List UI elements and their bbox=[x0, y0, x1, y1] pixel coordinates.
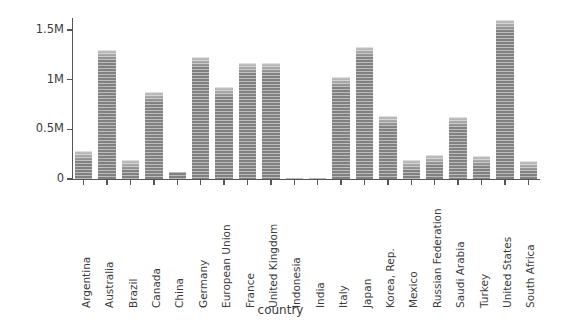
bar[interactable] bbox=[520, 161, 537, 179]
bar-highlight bbox=[379, 116, 396, 127]
bar[interactable] bbox=[403, 160, 420, 179]
bar-highlight bbox=[356, 47, 373, 58]
bar-highlight bbox=[262, 63, 279, 74]
bar[interactable] bbox=[473, 156, 490, 179]
bar[interactable] bbox=[332, 77, 349, 179]
bar[interactable] bbox=[426, 155, 443, 179]
bar[interactable] bbox=[309, 178, 326, 179]
bar[interactable] bbox=[496, 20, 513, 179]
bar[interactable] bbox=[75, 151, 92, 179]
bar-highlight bbox=[192, 57, 209, 68]
bar-highlight bbox=[122, 160, 139, 171]
bar-highlight bbox=[449, 117, 466, 128]
bar[interactable] bbox=[169, 172, 186, 179]
y-tick-label: 0 bbox=[57, 171, 64, 185]
bar[interactable] bbox=[122, 160, 139, 179]
bar[interactable] bbox=[356, 47, 373, 179]
plot-area bbox=[72, 18, 540, 179]
bar-highlight bbox=[145, 92, 162, 103]
bar[interactable] bbox=[449, 117, 466, 179]
bar-highlight bbox=[75, 151, 92, 162]
bar-highlight bbox=[426, 155, 443, 166]
y-tick-label: 1.5M bbox=[36, 22, 64, 36]
bar[interactable] bbox=[379, 116, 396, 179]
bar-highlight bbox=[239, 63, 256, 74]
bar[interactable] bbox=[215, 87, 232, 179]
bar-highlight bbox=[98, 50, 115, 61]
chart-figure: gnl_per_capita 00.5M1M1.5M ArgentinaAust… bbox=[0, 0, 561, 334]
bar[interactable] bbox=[192, 57, 209, 179]
y-tick-label: 0.5M bbox=[36, 121, 64, 135]
bar-highlight bbox=[403, 160, 420, 171]
bar[interactable] bbox=[239, 63, 256, 179]
y-tick-label: 1M bbox=[47, 72, 64, 86]
bar-highlight bbox=[520, 161, 537, 172]
x-axis-title: country bbox=[0, 303, 561, 317]
bar-highlight bbox=[332, 77, 349, 88]
x-axis-spine bbox=[72, 179, 540, 180]
bar[interactable] bbox=[262, 63, 279, 179]
bar-highlight bbox=[473, 156, 490, 167]
bar[interactable] bbox=[286, 178, 303, 179]
bar[interactable] bbox=[98, 50, 115, 179]
bar[interactable] bbox=[145, 92, 162, 179]
bar-highlight bbox=[496, 20, 513, 31]
bar-highlight bbox=[215, 87, 232, 98]
